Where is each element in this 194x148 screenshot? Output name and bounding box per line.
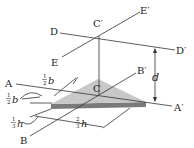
svg-text:3: 3 bbox=[12, 123, 16, 129]
svg-text:2: 2 bbox=[76, 116, 80, 122]
label-d-dimension: d bbox=[152, 71, 159, 84]
h-extension-right bbox=[103, 108, 130, 128]
b-half-left-leader bbox=[22, 97, 40, 99]
h-extension-left bbox=[30, 109, 51, 117]
svg-text:h: h bbox=[81, 118, 87, 129]
h-left-leader-curve bbox=[22, 117, 38, 124]
label-d: D bbox=[50, 26, 58, 37]
svg-text:3: 3 bbox=[76, 123, 80, 129]
svg-text:1: 1 bbox=[12, 116, 16, 122]
svg-text:2: 2 bbox=[7, 99, 11, 105]
label-e-prime: E′ bbox=[140, 5, 150, 16]
svg-text:b: b bbox=[12, 94, 18, 105]
label-c-prime: C′ bbox=[93, 18, 104, 29]
h-third-dim bbox=[35, 116, 60, 120]
svg-text:h: h bbox=[17, 118, 23, 129]
label-half-b-top: 1 2 b bbox=[42, 73, 54, 86]
svg-text:2: 2 bbox=[43, 80, 47, 86]
label-b-prime: B′ bbox=[137, 65, 147, 76]
label-half-b-left: 1 2 b bbox=[6, 92, 18, 105]
axis-dd bbox=[60, 33, 175, 50]
svg-text:b: b bbox=[48, 75, 54, 86]
label-two-thirds-h: 2 3 h bbox=[75, 116, 87, 129]
d-arrow-down bbox=[153, 97, 157, 102]
label-b: B bbox=[20, 135, 27, 146]
label-c: C bbox=[93, 83, 101, 94]
triangular-plate-diagram: C′ D D′ E E′ d C A A′ B′ B 1 2 b 1 2 b 1… bbox=[0, 0, 194, 148]
label-third-h: 1 3 h bbox=[11, 116, 23, 129]
label-a: A bbox=[4, 78, 13, 89]
d-arrow-up bbox=[153, 48, 157, 53]
label-a-prime: A′ bbox=[173, 102, 184, 113]
label-d-prime: D′ bbox=[176, 45, 187, 56]
svg-text:1: 1 bbox=[43, 73, 47, 79]
label-e: E bbox=[51, 57, 58, 68]
svg-text:1: 1 bbox=[7, 92, 11, 98]
